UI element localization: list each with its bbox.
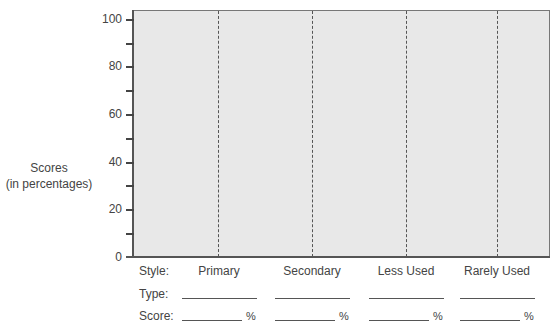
y-tick-minor [126, 138, 134, 140]
column-divider [406, 11, 407, 257]
y-tick-major [126, 66, 134, 68]
y-tick-label: 20 [90, 202, 122, 216]
category-secondary: Secondary [267, 264, 357, 278]
y-axis-title-line1: Scores [0, 160, 98, 176]
y-tick-minor [126, 43, 134, 45]
type-blank-primary[interactable] [182, 298, 257, 299]
y-tick-label: 80 [90, 59, 122, 73]
score-blank-less-used[interactable] [369, 320, 429, 321]
y-tick-minor [126, 185, 134, 187]
y-tick-major [126, 209, 134, 211]
y-tick-major [126, 162, 134, 164]
y-tick-label: 100 [90, 12, 122, 26]
type-blank-rarely-used[interactable] [460, 298, 535, 299]
style-row-label: Style: [139, 264, 169, 278]
percent-sign: % [433, 310, 443, 322]
type-blank-less-used[interactable] [369, 298, 444, 299]
column-divider [497, 11, 498, 257]
y-tick-minor [126, 90, 134, 92]
y-tick-label: 60 [90, 107, 122, 121]
plot-area [133, 10, 550, 257]
y-tick-minor [126, 233, 134, 235]
category-less-used: Less Used [361, 264, 451, 278]
column-divider [218, 11, 219, 257]
y-tick-major [126, 114, 134, 116]
percent-sign: % [246, 310, 256, 322]
type-row-label: Type: [139, 287, 168, 301]
y-tick-major [126, 19, 134, 21]
y-axis-title: Scores (in percentages) [0, 160, 98, 192]
score-blank-rarely-used[interactable] [460, 320, 520, 321]
score-row-label: Score: [139, 309, 174, 323]
y-tick-label: 40 [90, 155, 122, 169]
y-tick-label: 0 [90, 250, 122, 264]
y-axis-line [132, 10, 134, 258]
percent-sign: % [524, 310, 534, 322]
score-blank-secondary[interactable] [275, 320, 335, 321]
x-axis-line [126, 256, 550, 258]
category-primary: Primary [174, 264, 264, 278]
category-rarely-used: Rarely Used [452, 264, 542, 278]
score-blank-primary[interactable] [182, 320, 242, 321]
type-blank-secondary[interactable] [275, 298, 350, 299]
percent-sign: % [339, 310, 349, 322]
column-divider [312, 11, 313, 257]
y-axis-title-line2: (in percentages) [0, 176, 98, 192]
